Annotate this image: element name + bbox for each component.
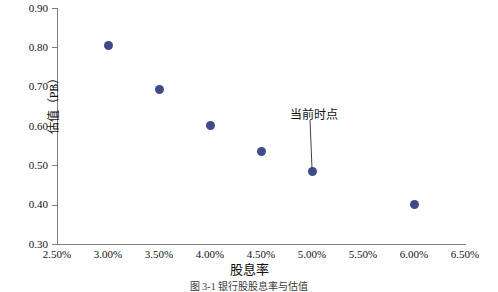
y-axis-tick-mark bbox=[52, 244, 57, 245]
x-axis-tick-label: 3.00% bbox=[94, 248, 122, 260]
y-axis-tick-label: 0.90 bbox=[14, 3, 48, 14]
annotation-label: 当前时点 bbox=[290, 108, 338, 122]
data-point bbox=[206, 121, 215, 130]
y-axis-tick-label: 0.50 bbox=[14, 160, 48, 171]
y-axis-title: 估值（PB） bbox=[47, 43, 61, 163]
x-axis-tick-label: 2.50% bbox=[43, 248, 71, 260]
x-axis-tick-label: 5.00% bbox=[298, 248, 326, 260]
x-axis-tick-label: 6.00% bbox=[400, 248, 428, 260]
data-point bbox=[308, 167, 317, 176]
x-axis-tick-label: 4.00% bbox=[196, 248, 224, 260]
x-axis-tick-label: 6.50% bbox=[451, 248, 479, 260]
data-point bbox=[104, 41, 113, 50]
y-axis-tick-label: 0.70 bbox=[14, 81, 48, 92]
y-axis-tick-label: 0.80 bbox=[14, 42, 48, 53]
x-axis-line bbox=[57, 244, 466, 245]
data-point bbox=[155, 85, 164, 94]
plot-area bbox=[57, 8, 465, 244]
data-point bbox=[257, 147, 266, 156]
x-axis-title: 股息率 bbox=[0, 262, 498, 277]
data-point bbox=[410, 200, 419, 209]
y-axis-tick-label: 0.40 bbox=[14, 199, 48, 210]
x-axis-tick-label: 3.50% bbox=[145, 248, 173, 260]
y-axis-tick-label: 0.60 bbox=[14, 121, 48, 132]
x-axis-tick-label: 5.50% bbox=[349, 248, 377, 260]
x-axis-tick-label: 4.50% bbox=[247, 248, 275, 260]
figure-caption: 图 3-1 银行股股息率与估值 bbox=[0, 281, 498, 292]
